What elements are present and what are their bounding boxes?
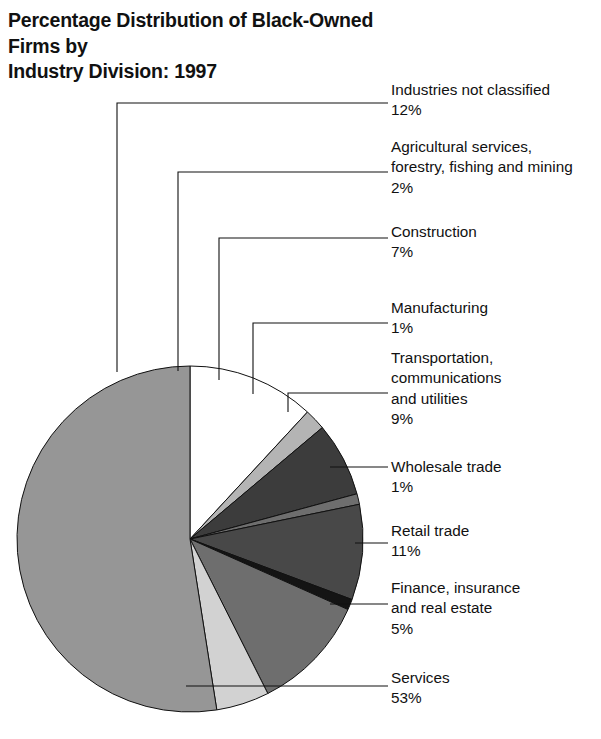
pie-slice-group: [17, 366, 363, 712]
slice-callout: Manufacturing1%: [391, 298, 488, 339]
slice-percentage: 7%: [391, 242, 477, 262]
slice-percentage: 1%: [391, 318, 488, 338]
slice-label: Wholesale trade: [391, 457, 502, 477]
leader-line: [178, 172, 388, 371]
chart-page: Percentage Distribution of Black-Owned F…: [0, 0, 601, 739]
slice-percentage: 2%: [391, 178, 573, 198]
slice-percentage: 1%: [391, 477, 502, 497]
slice-callout: Industries not classified12%: [391, 80, 550, 121]
pie-slice[interactable]: [17, 366, 217, 712]
slice-label: Services: [391, 668, 450, 688]
slice-percentage: 9%: [391, 409, 502, 429]
leader-line: [219, 238, 388, 380]
slice-callout: Wholesale trade1%: [391, 457, 502, 498]
slice-callout: Finance, insurance and real estate5%: [391, 578, 520, 639]
slice-label: Construction: [391, 222, 477, 242]
slice-label: Industries not classified: [391, 80, 550, 100]
slice-label: Retail trade: [391, 521, 469, 541]
slice-percentage: 11%: [391, 541, 469, 561]
slice-callout: Services53%: [391, 668, 450, 709]
slice-label: Manufacturing: [391, 298, 488, 318]
slice-percentage: 5%: [391, 619, 520, 639]
leader-line: [253, 323, 388, 394]
slice-callout: Retail trade11%: [391, 521, 469, 562]
slice-label: Agricultural services, forestry, fishing…: [391, 137, 573, 178]
slice-callout: Transportation, communications and utili…: [391, 348, 502, 429]
slice-label: Finance, insurance and real estate: [391, 578, 520, 619]
slice-percentage: 53%: [391, 688, 450, 708]
slice-percentage: 12%: [391, 100, 550, 120]
slice-label: Transportation, communications and utili…: [391, 348, 502, 409]
slice-callout: Agricultural services, forestry, fishing…: [391, 137, 573, 198]
slice-callout: Construction7%: [391, 222, 477, 263]
